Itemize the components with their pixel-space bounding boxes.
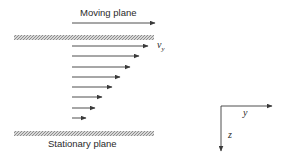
stationary-plate (14, 131, 154, 136)
velocity-subscript: y (161, 45, 164, 53)
diagram-canvas (0, 0, 284, 156)
moving-plane-label: Moving plane (80, 7, 137, 18)
z-axis-label: z (228, 129, 232, 140)
velocity-profile-arrows (72, 46, 148, 118)
velocity-label: vy (157, 39, 165, 53)
couette-flow-diagram: Moving plane Stationary plane vy y z (0, 0, 284, 156)
y-axis-label: y (243, 107, 247, 118)
stationary-plane-label: Stationary plane (48, 138, 117, 149)
moving-plate (14, 35, 154, 40)
